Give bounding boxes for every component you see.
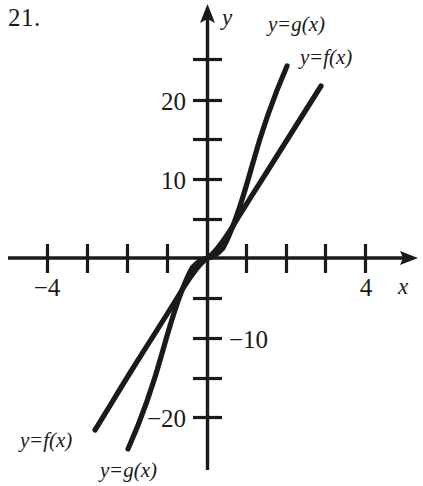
curve-label-f-bottom-rhs: f(x) — [43, 428, 72, 452]
curve-label-f-bottom-op: = — [29, 428, 43, 452]
graph-svg: −4 4 20 10 −10 −20 y x — [0, 0, 423, 486]
curve-label-g-top-lhs: y — [268, 12, 277, 36]
figure-container: 21. — [0, 0, 423, 486]
curve-label-g-top: y=g(x) — [268, 12, 325, 37]
curve-label-f-bottom: y=f(x) — [20, 428, 72, 453]
y-label-20: 20 — [161, 88, 186, 115]
curve-label-g-top-rhs: g(x) — [291, 12, 325, 36]
curve-label-f-top-op: = — [309, 45, 323, 69]
y-label--10: −10 — [229, 326, 268, 353]
curve-label-g-top-op: = — [277, 12, 291, 36]
curve-label-f-bottom-lhs: y — [20, 428, 29, 452]
curve-label-f-top-lhs: y — [300, 45, 309, 69]
problem-number: 21. — [8, 4, 41, 32]
curve-label-g-bottom-rhs: g(x) — [123, 458, 157, 482]
y-label--20: −20 — [147, 405, 186, 432]
y-axis-name: y — [220, 5, 233, 30]
curve-label-f-top-rhs: f(x) — [323, 45, 352, 69]
curve-label-g-bottom-lhs: y — [100, 458, 109, 482]
y-label-10: 10 — [161, 167, 186, 194]
curve-label-g-bottom-op: = — [109, 458, 123, 482]
curve-label-f-top: y=f(x) — [300, 45, 352, 70]
x-axis-name: x — [397, 274, 409, 299]
curve-label-g-bottom: y=g(x) — [100, 458, 157, 483]
x-label-4: 4 — [360, 274, 373, 301]
x-label--4: −4 — [34, 274, 61, 301]
